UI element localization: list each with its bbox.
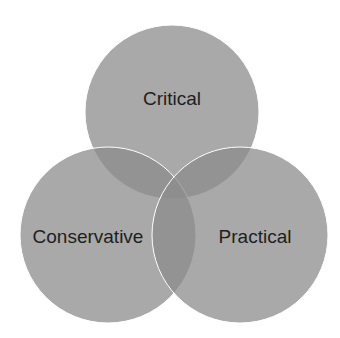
venn-diagram: Critical Conservative Practical: [0, 0, 340, 338]
label-critical: Critical: [143, 88, 201, 109]
label-practical: Practical: [219, 226, 292, 247]
label-conservative: Conservative: [33, 226, 144, 247]
